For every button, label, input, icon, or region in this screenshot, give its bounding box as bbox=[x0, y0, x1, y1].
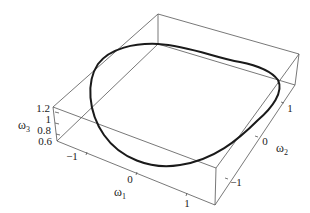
x-tick-1: 1 bbox=[184, 197, 190, 209]
tick-marks bbox=[55, 102, 284, 196]
box-front-vertical bbox=[215, 168, 216, 205]
3d-plot: 1.2 1 0.8 0.6 ω3 −1 0 1 ω1 −1 0 1 ω2 bbox=[0, 0, 310, 213]
y-tick-1: 1 bbox=[287, 102, 293, 114]
box-bottom-back-right bbox=[158, 44, 295, 85]
z-axis-label: ω3 bbox=[18, 118, 30, 134]
y-axis-label: ω2 bbox=[276, 141, 288, 157]
x-axis: −1 0 1 ω1 bbox=[66, 150, 190, 209]
x-axis-label: ω1 bbox=[114, 185, 126, 201]
z-tick-0.6: 0.6 bbox=[38, 135, 52, 147]
z-axis: 1.2 1 0.8 0.6 ω3 bbox=[18, 102, 53, 147]
box-bottom-edges bbox=[57, 85, 295, 205]
bounding-box bbox=[53, 14, 299, 205]
y-tick-0: 0 bbox=[262, 135, 268, 147]
trajectory-curve bbox=[90, 44, 279, 166]
x-tick-neg1: −1 bbox=[66, 150, 78, 162]
x-tick-0: 0 bbox=[127, 173, 133, 185]
y-tick-neg1: −1 bbox=[230, 176, 242, 188]
y-axis: −1 0 1 ω2 bbox=[230, 102, 293, 188]
